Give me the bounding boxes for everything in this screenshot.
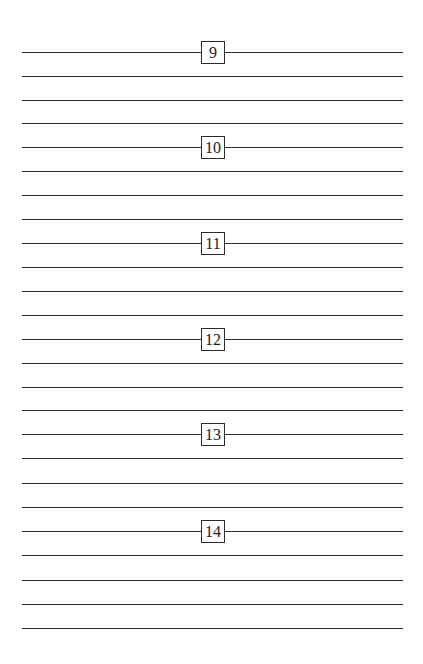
line-number-box: 14 [201,520,225,543]
writing-line [22,219,403,220]
writing-line [22,555,403,556]
writing-line [22,76,403,77]
line-number-box: 10 [201,136,225,159]
writing-line [22,604,403,605]
line-number-box: 13 [201,423,225,446]
writing-line [22,291,403,292]
writing-line [22,100,403,101]
writing-line [22,267,403,268]
writing-line [22,315,403,316]
writing-line [22,123,403,124]
writing-line [22,628,403,629]
writing-line [22,483,403,484]
writing-line [22,507,403,508]
writing-line [22,171,403,172]
writing-line [22,387,403,388]
writing-line [22,458,403,459]
writing-line [22,580,403,581]
writing-line [22,410,403,411]
line-number-box: 12 [201,328,225,351]
writing-line [22,363,403,364]
line-number-box: 9 [201,41,225,64]
writing-line [22,195,403,196]
line-number-box: 11 [201,232,225,255]
